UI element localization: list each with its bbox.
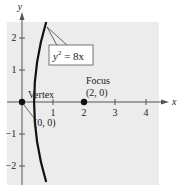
focus-point: [81, 99, 87, 105]
y-axis-label: y: [17, 1, 23, 12]
x-axis-arrow-icon: [161, 100, 169, 105]
focus-coord-label: (2, 0): [86, 87, 108, 99]
y-tick-neg1: −1: [6, 128, 17, 139]
x-axis-label: x: [171, 96, 177, 107]
y-axis-arrow-icon: [20, 12, 25, 20]
x-tick-4: 4: [144, 107, 149, 118]
vertex-label: Vertex: [28, 89, 54, 100]
vertex-coord-label: (0, 0): [34, 117, 56, 129]
y-tick-2: 2: [12, 32, 17, 43]
y-tick-neg2: −2: [6, 160, 17, 171]
equation-label-box: y2 = 8x: [49, 45, 93, 65]
focus-label: Focus: [86, 75, 110, 86]
x-tick-2: 2: [82, 107, 87, 118]
equation-label: y2 = 8x: [52, 49, 85, 62]
parabola-chart: x 1 2 3 4 y 2 1 −1 −2 y2 = 8x Vertex (0,: [0, 0, 177, 192]
y-tick-1: 1: [12, 64, 17, 75]
x-tick-3: 3: [113, 107, 118, 118]
vertex-point: [19, 99, 25, 105]
